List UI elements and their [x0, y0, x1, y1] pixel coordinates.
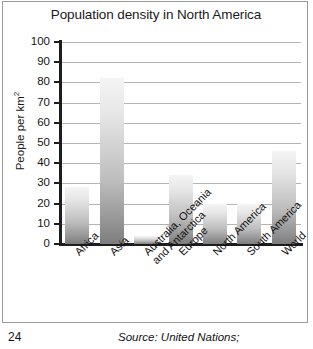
- y-axis-title: People per km2: [14, 71, 26, 191]
- y-tick-label: 50: [3, 136, 50, 148]
- y-tick-label: 80: [3, 75, 50, 87]
- figure: Population density in North America Peop…: [0, 0, 313, 349]
- bar: [100, 78, 124, 244]
- y-tick-label: 40: [3, 156, 50, 168]
- y-tick-label: 90: [3, 55, 50, 67]
- y-tick-label: 100: [3, 35, 50, 47]
- y-tick-label: 60: [3, 116, 50, 128]
- page-number: 24: [8, 330, 21, 344]
- chart-frame: Population density in North America Peop…: [2, 1, 308, 323]
- y-tick-label: 0: [3, 237, 50, 249]
- chart-title: Population density in North America: [3, 7, 309, 22]
- y-tick-label: 30: [3, 176, 50, 188]
- y-tick-label: 20: [3, 197, 50, 209]
- y-tick-label: 10: [3, 217, 50, 229]
- source-note: Source: United Nations;: [118, 331, 239, 343]
- y-tick-label: 70: [3, 96, 50, 108]
